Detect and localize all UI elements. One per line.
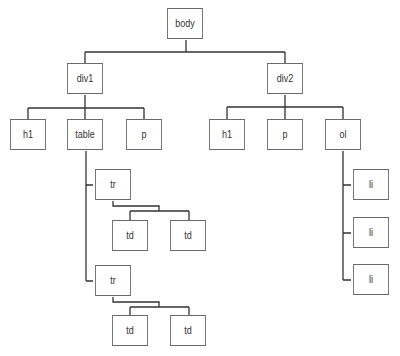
node-tr1-td-2: td [170, 220, 206, 251]
node-li-1: li [353, 169, 389, 200]
dom-tree-diagram: body div1 div2 h1 table p h1 p ol tr td … [0, 0, 400, 356]
node-tr2-td-1: td [112, 315, 148, 346]
node-div1-table: table [67, 119, 103, 150]
node-tr-1: tr [95, 169, 131, 200]
node-div2: div2 [267, 63, 303, 94]
node-li-2: li [353, 217, 389, 248]
node-div1: div1 [67, 63, 103, 94]
node-tr-2: tr [95, 265, 131, 296]
node-li-3: li [353, 264, 389, 295]
connector-lines [0, 0, 400, 356]
node-div2-h1: h1 [209, 119, 245, 150]
node-div1-p: p [126, 119, 162, 150]
node-div2-p: p [267, 119, 303, 150]
node-tr1-td-1: td [112, 220, 148, 251]
node-div1-h1: h1 [10, 119, 46, 150]
node-div2-ol: ol [325, 119, 361, 150]
node-body: body [167, 8, 203, 39]
node-tr2-td-2: td [170, 315, 206, 346]
